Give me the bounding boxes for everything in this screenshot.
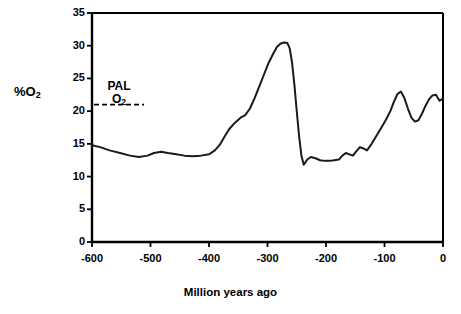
x-tick--400: -400: [186, 253, 232, 264]
x-tick--600: -600: [69, 253, 115, 264]
axes: [87, 13, 443, 247]
oxygen-over-time-chart: %O2 05101520253035 -600-500-400-300-200-…: [0, 0, 461, 314]
y-tick-5: 5: [59, 203, 85, 214]
y-tick-30: 30: [59, 40, 85, 51]
data-series-layer: [92, 42, 443, 164]
y-tick-10: 10: [59, 171, 85, 182]
y-tick-15: 15: [59, 138, 85, 149]
pal-annotation-denominator: O2: [99, 93, 139, 106]
x-tick--200: -200: [303, 253, 349, 264]
y-axis-label: %O2: [14, 84, 41, 99]
y-tick-20: 20: [59, 105, 85, 116]
series-line-0: [92, 42, 443, 164]
y-axis-label-text: %O: [14, 84, 36, 99]
y-axis-label-subscript: 2: [36, 90, 41, 100]
x-tick-0: 0: [420, 253, 461, 264]
pal-o2-annotation: PAL O2: [99, 80, 139, 105]
y-tick-35: 35: [59, 7, 85, 18]
x-axis-label: Million years ago: [0, 286, 461, 298]
x-tick--500: -500: [128, 253, 174, 264]
x-tick--300: -300: [245, 253, 291, 264]
y-tick-25: 25: [59, 72, 85, 83]
y-tick-0: 0: [59, 236, 85, 247]
x-tick--100: -100: [362, 253, 408, 264]
